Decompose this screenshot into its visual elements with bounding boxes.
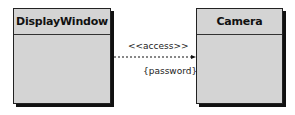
dependency-arrow	[0, 0, 295, 115]
arrowhead-icon	[191, 55, 196, 59]
constraint-label: {password}	[143, 66, 197, 76]
stereotype-label: <<access>>	[128, 41, 189, 51]
